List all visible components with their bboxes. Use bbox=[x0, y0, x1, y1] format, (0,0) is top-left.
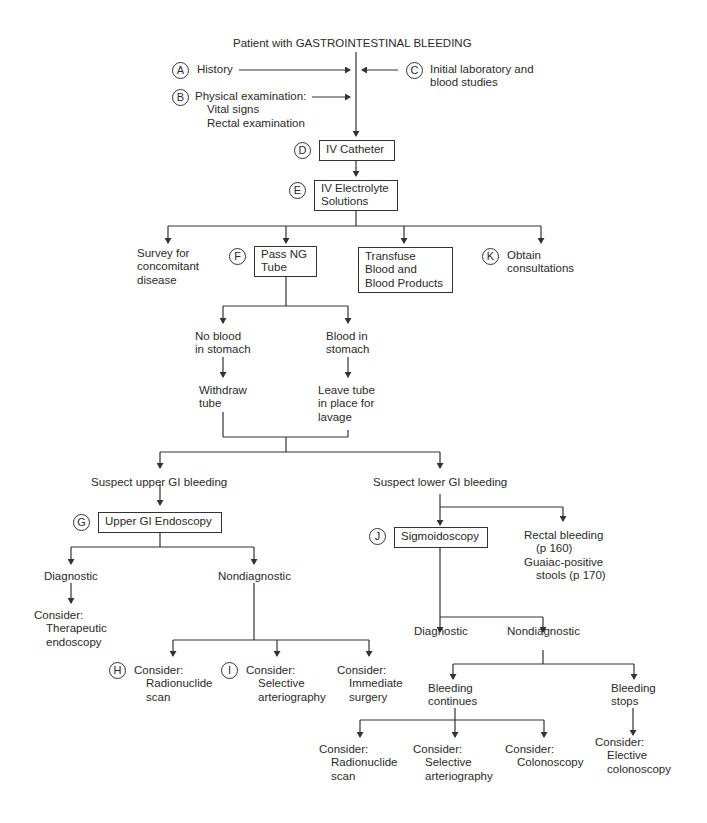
transfuse-box: Transfuse Blood and Blood Products bbox=[358, 247, 453, 293]
consider-line: scan bbox=[319, 770, 398, 783]
transfuse-line: Blood and bbox=[365, 263, 446, 276]
survey-node: Survey for concomitant disease bbox=[137, 247, 199, 287]
leave-tube-line: in place for bbox=[318, 397, 375, 410]
consultations-line: Obtain bbox=[507, 249, 574, 262]
vital-signs-label: Vital signs bbox=[195, 103, 306, 116]
marker-i-icon: I bbox=[221, 662, 238, 679]
no-blood-line: No blood bbox=[195, 330, 251, 343]
continues-line: continues bbox=[428, 695, 477, 708]
lower-radionuclide-node: Consider: Radionuclide scan bbox=[319, 743, 398, 783]
upper-radionuclide-node: Consider: Radionuclide scan bbox=[134, 664, 213, 704]
iv-electrolyte-line: Solutions bbox=[321, 195, 391, 208]
marker-e-icon: E bbox=[289, 182, 306, 199]
iv-electrolyte-line: IV Electrolyte bbox=[321, 182, 391, 195]
leave-tube-line: Leave tube bbox=[318, 384, 375, 397]
withdraw-line: tube bbox=[199, 397, 247, 410]
physical-exam-label: Physical examination: bbox=[195, 90, 306, 103]
upper-gi-endoscopy-box: Upper GI Endoscopy bbox=[98, 512, 222, 533]
leave-tube-line: lavage bbox=[318, 411, 375, 424]
transfuse-line: Blood Products bbox=[365, 277, 446, 290]
lab-studies-node: Initial laboratory and blood studies bbox=[430, 63, 534, 90]
withdraw-line: Withdraw bbox=[199, 384, 247, 397]
consider-line: scan bbox=[134, 691, 213, 704]
iv-catheter-label: IV Catheter bbox=[326, 143, 388, 156]
rectal-line: stools (p 170) bbox=[524, 569, 606, 582]
consider-line: Elective bbox=[595, 749, 671, 762]
transfuse-line: Transfuse bbox=[365, 250, 446, 263]
stops-line: Bleeding bbox=[611, 682, 656, 695]
withdraw-node: Withdraw tube bbox=[199, 384, 247, 411]
consider-line: Selective bbox=[246, 677, 326, 690]
physical-exam-node: Physical examination: Vital signs Rectal… bbox=[195, 90, 306, 130]
marker-d-icon: D bbox=[294, 142, 311, 159]
consider-line: Radionuclide bbox=[134, 677, 213, 690]
iv-catheter-box: IV Catheter bbox=[319, 140, 395, 161]
consider-line: Consider: bbox=[246, 664, 326, 677]
upper-gi-endoscopy-label: Upper GI Endoscopy bbox=[105, 515, 215, 528]
survey-line: disease bbox=[137, 274, 199, 287]
consider-line: Colonoscopy bbox=[505, 756, 583, 769]
survey-line: concomitant bbox=[137, 260, 199, 273]
marker-j-icon: J bbox=[369, 528, 386, 545]
marker-b-icon: B bbox=[172, 89, 189, 106]
lower-arteriography-node: Consider: Selective arteriography bbox=[413, 743, 493, 783]
consider-line: Immediate bbox=[337, 677, 403, 690]
sigmoidoscopy-box: Sigmoidoscopy bbox=[394, 527, 488, 548]
upper-nondiagnostic-label: Nondiagnostic bbox=[218, 570, 291, 583]
marker-c-icon: C bbox=[406, 62, 423, 79]
upper-diagnostic-label: Diagnostic bbox=[44, 570, 98, 583]
consider-line: Consider: bbox=[319, 743, 398, 756]
marker-k-icon: K bbox=[482, 248, 499, 265]
rectal-exam-label: Rectal examination bbox=[195, 117, 306, 130]
consider-line: arteriography bbox=[413, 770, 493, 783]
upper-arteriography-node: Consider: Selective arteriography bbox=[246, 664, 326, 704]
consider-line: arteriography bbox=[246, 691, 326, 704]
lab-studies-line: blood studies bbox=[430, 76, 534, 89]
leave-tube-node: Leave tube in place for lavage bbox=[318, 384, 375, 424]
suspect-upper-gi-label: Suspect upper GI bleeding bbox=[91, 476, 227, 489]
sigmoidoscopy-label: Sigmoidoscopy bbox=[401, 530, 481, 543]
consider-line: colonoscopy bbox=[595, 763, 671, 776]
consultations-node: Obtain consultations bbox=[507, 249, 574, 276]
consultations-line: consultations bbox=[507, 262, 574, 275]
lab-studies-line: Initial laboratory and bbox=[430, 63, 534, 76]
iv-electrolyte-box: IV Electrolyte Solutions bbox=[314, 180, 398, 211]
consider-line: Consider: bbox=[595, 736, 671, 749]
consider-line: Consider: bbox=[413, 743, 493, 756]
consider-line: Consider: bbox=[134, 664, 213, 677]
marker-g-icon: G bbox=[73, 514, 90, 531]
continues-line: Bleeding bbox=[428, 682, 477, 695]
consider-line: Consider: bbox=[337, 664, 403, 677]
survey-line: Survey for bbox=[137, 247, 199, 260]
therapeutic-endoscopy-node: Consider: Therapeutic endoscopy bbox=[34, 609, 107, 649]
lower-diagnostic-label: Diagnostic bbox=[414, 625, 468, 638]
marker-h-icon: H bbox=[109, 662, 126, 679]
bleeding-continues-node: Bleeding continues bbox=[428, 682, 477, 709]
rectal-bleeding-node: Rectal bleeding (p 160) Guaiac-positive … bbox=[524, 529, 606, 583]
no-blood-line: in stomach bbox=[195, 343, 251, 356]
therapeutic-line: Therapeutic bbox=[34, 622, 107, 635]
gi-bleeding-flowchart: Patient with GASTROINTESTINAL BLEEDING A… bbox=[0, 0, 707, 823]
marker-a-icon: A bbox=[172, 62, 189, 79]
consider-line: Consider: bbox=[505, 743, 583, 756]
bleeding-stops-node: Bleeding stops bbox=[611, 682, 656, 709]
blood-line: Blood in bbox=[326, 330, 369, 343]
blood-node: Blood in stomach bbox=[326, 330, 369, 357]
rectal-line: (p 160) bbox=[524, 542, 606, 555]
rectal-line: Guaiac-positive bbox=[524, 556, 606, 569]
pass-ng-line: Tube bbox=[261, 261, 310, 274]
pass-ng-line: Pass NG bbox=[261, 248, 310, 261]
consider-line: surgery bbox=[337, 691, 403, 704]
consider-line: Radionuclide bbox=[319, 756, 398, 769]
consider-line: Selective bbox=[413, 756, 493, 769]
no-blood-node: No blood in stomach bbox=[195, 330, 251, 357]
immediate-surgery-node: Consider: Immediate surgery bbox=[337, 664, 403, 704]
pass-ng-tube-box: Pass NG Tube bbox=[254, 246, 317, 277]
lower-nondiagnostic-label: Nondiagnostic bbox=[507, 625, 580, 638]
blood-line: stomach bbox=[326, 343, 369, 356]
suspect-lower-gi-label: Suspect lower GI bleeding bbox=[373, 476, 507, 489]
therapeutic-line: Consider: bbox=[34, 609, 107, 622]
marker-f-icon: F bbox=[229, 248, 246, 265]
flowchart-title: Patient with GASTROINTESTINAL BLEEDING bbox=[233, 37, 472, 50]
stops-line: stops bbox=[611, 695, 656, 708]
